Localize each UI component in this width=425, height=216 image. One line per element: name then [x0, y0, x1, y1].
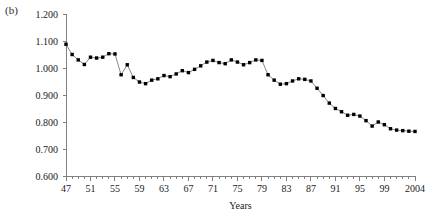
data-point-marker: [260, 59, 263, 62]
data-point-marker: [83, 63, 86, 66]
data-point-marker: [291, 79, 294, 82]
data-point-marker: [377, 120, 380, 123]
data-point-marker: [401, 129, 404, 132]
data-point-marker: [272, 78, 275, 81]
data-point-marker: [383, 123, 386, 126]
x-tick-label: 63: [159, 183, 169, 194]
data-point-marker: [162, 74, 165, 77]
x-tick-label: 87: [306, 183, 316, 194]
data-point-marker: [370, 124, 373, 127]
data-point-marker: [309, 79, 312, 82]
data-point-marker: [199, 64, 202, 67]
data-point-marker: [358, 114, 361, 117]
data-point-marker: [407, 129, 410, 132]
data-point-marker: [328, 101, 331, 104]
x-tick-label: 83: [281, 183, 291, 194]
data-point-marker: [101, 56, 104, 59]
data-point-marker: [138, 80, 141, 83]
data-point-marker: [107, 52, 110, 55]
chart-plot-area: 1.2001.1001.0000.9000.8000.7000.600 4751…: [0, 0, 425, 216]
x-tick-label: 71: [208, 183, 218, 194]
data-point-marker: [144, 82, 147, 85]
y-tick-label: 0.800: [36, 117, 59, 128]
y-tick-label: 0.600: [36, 171, 59, 182]
x-tick-label: 51: [85, 183, 95, 194]
data-point-marker: [346, 114, 349, 117]
data-point-marker: [150, 78, 153, 81]
y-tick-label: 1.000: [36, 63, 59, 74]
data-point-marker: [236, 60, 239, 63]
data-point-marker: [303, 78, 306, 81]
data-point-marker: [395, 128, 398, 131]
data-point-marker: [266, 73, 269, 76]
data-point-marker: [254, 58, 257, 61]
x-tick-label: 99: [379, 183, 389, 194]
data-point-marker: [321, 94, 324, 97]
data-series: [64, 43, 416, 134]
data-point-marker: [315, 87, 318, 90]
data-point-marker: [223, 62, 226, 65]
y-tick-label: 1.100: [36, 36, 59, 47]
data-point-marker: [70, 53, 73, 56]
figure-panel-b: (b) 1.2001.1001.0000.9000.8000.7000.600 …: [0, 0, 425, 216]
x-tick-label: 91: [330, 183, 340, 194]
x-tick-label: 75: [232, 183, 242, 194]
data-point-marker: [352, 113, 355, 116]
y-tick-label: 1.200: [36, 9, 59, 20]
data-point-marker: [413, 130, 416, 133]
data-point-marker: [248, 61, 251, 64]
data-point-marker: [132, 76, 135, 79]
data-point-marker: [297, 77, 300, 80]
data-point-marker: [334, 107, 337, 110]
series-line: [66, 44, 415, 131]
data-point-marker: [77, 58, 80, 61]
data-point-marker: [211, 59, 214, 62]
data-point-marker: [285, 82, 288, 85]
data-point-marker: [168, 75, 171, 78]
data-point-marker: [126, 63, 129, 66]
data-point-marker: [95, 56, 98, 59]
x-tick-label: 59: [134, 183, 144, 194]
data-point-marker: [242, 63, 245, 66]
x-tick-label: 79: [257, 183, 267, 194]
data-point-marker: [205, 60, 208, 63]
x-axis: 47515559636771757983879195992004: [61, 176, 425, 194]
data-point-marker: [230, 58, 233, 61]
data-point-marker: [119, 73, 122, 76]
x-tick-label: 95: [355, 183, 365, 194]
x-tick-label: 2004: [405, 183, 425, 194]
y-tick-label: 0.900: [36, 90, 59, 101]
data-point-marker: [175, 72, 178, 75]
x-tick-label: 47: [61, 183, 71, 194]
y-axis: 1.2001.1001.0000.9000.8000.7000.600: [36, 9, 67, 182]
data-point-marker: [89, 56, 92, 59]
data-point-marker: [187, 71, 190, 74]
x-tick-label: 67: [183, 183, 193, 194]
data-point-marker: [389, 127, 392, 130]
data-point-marker: [279, 83, 282, 86]
x-axis-title: Years: [191, 200, 291, 211]
data-point-marker: [113, 52, 116, 55]
data-point-marker: [156, 77, 159, 80]
data-point-marker: [217, 61, 220, 64]
data-point-marker: [64, 43, 67, 46]
data-point-marker: [181, 69, 184, 72]
data-point-marker: [340, 110, 343, 113]
data-point-marker: [364, 119, 367, 122]
x-tick-label: 55: [110, 183, 120, 194]
data-point-marker: [193, 68, 196, 71]
y-tick-label: 0.700: [36, 144, 59, 155]
